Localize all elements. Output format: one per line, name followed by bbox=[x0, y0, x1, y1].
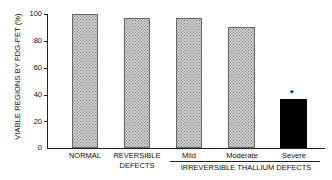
x-label-mild: Mild bbox=[169, 151, 209, 161]
y-tick-100 bbox=[44, 14, 48, 15]
significance-marker: * bbox=[290, 88, 294, 98]
x-label-moderate: Moderate bbox=[219, 151, 265, 161]
y-tick-label-0: 0 bbox=[20, 143, 42, 152]
y-tick-label-40: 40 bbox=[20, 90, 42, 99]
y-tick-label-80: 80 bbox=[20, 36, 42, 45]
group-underline bbox=[170, 161, 320, 162]
bar-moderate bbox=[228, 27, 255, 148]
y-tick-label-60: 60 bbox=[20, 63, 42, 72]
bar-severe bbox=[280, 99, 307, 148]
y-tick-60 bbox=[44, 68, 48, 69]
y-tick-label-20: 20 bbox=[20, 117, 42, 126]
bar-reversible-defects bbox=[124, 18, 150, 148]
x-label-reversible: REVERSIBLE bbox=[108, 151, 166, 161]
x-label-normal: NORMAL bbox=[62, 151, 108, 161]
y-tick-40 bbox=[44, 95, 48, 96]
bar-normal bbox=[72, 14, 98, 148]
x-label-severe: Severe bbox=[273, 151, 315, 161]
y-axis bbox=[47, 14, 48, 148]
x-label-defects: DEFECTS bbox=[108, 161, 166, 171]
y-tick-80 bbox=[44, 41, 48, 42]
x-axis bbox=[47, 148, 325, 149]
y-axis-label: VIABLE REGIONS BY FDG-PET (%) bbox=[13, 2, 22, 152]
x-group-label: IRREVERSIBLE THALLIUM DEFECTS bbox=[168, 163, 324, 173]
bar-mild bbox=[176, 18, 202, 148]
y-tick-label-100: 100 bbox=[20, 9, 42, 18]
y-tick-20 bbox=[44, 121, 48, 122]
